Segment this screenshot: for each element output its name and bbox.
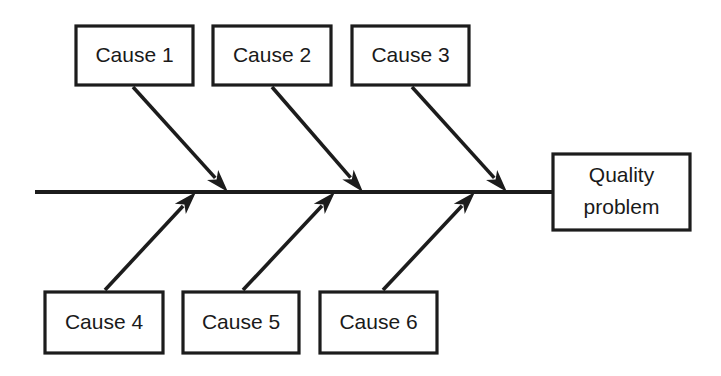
fishbone-canvas: Cause 1 Cause 2 Cause 3 Cause 4 Cause 5 …: [0, 0, 721, 376]
cause-box-4[interactable]: Cause 4: [45, 292, 163, 353]
effect-box-label-line-1: Quality: [589, 163, 655, 186]
cause-box-label: Cause 6: [339, 310, 417, 333]
effect-box-label-line-2: problem: [584, 195, 660, 218]
cause-box-5[interactable]: Cause 5: [183, 292, 299, 353]
effect-box[interactable]: Quality problem: [553, 154, 690, 230]
fishbone-diagram: Cause 1 Cause 2 Cause 3 Cause 4 Cause 5 …: [0, 0, 721, 376]
bone-cause-3: [412, 87, 507, 192]
cause-box-6[interactable]: Cause 6: [320, 292, 437, 353]
cause-box-label: Cause 4: [65, 310, 144, 333]
cause-box-label: Cause 5: [202, 310, 280, 333]
cause-box-label: Cause 3: [371, 43, 449, 66]
top-bones-group: [133, 87, 507, 192]
cause-box-1[interactable]: Cause 1: [76, 26, 193, 85]
bone-cause-5: [243, 192, 335, 290]
cause-box-2[interactable]: Cause 2: [213, 26, 331, 85]
cause-box-label: Cause 1: [95, 43, 173, 66]
bone-cause-4: [105, 192, 196, 290]
bone-cause-2: [272, 87, 363, 192]
bottom-bones-group: [105, 192, 475, 290]
cause-box-3[interactable]: Cause 3: [352, 26, 469, 85]
cause-box-label: Cause 2: [233, 43, 311, 66]
bone-cause-1: [133, 87, 228, 192]
bone-cause-6: [383, 192, 475, 290]
